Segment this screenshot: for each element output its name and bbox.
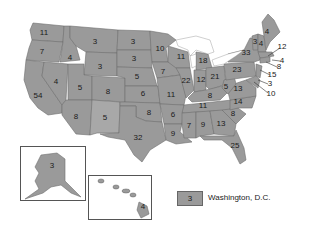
state-label-alaska: 3 bbox=[50, 162, 54, 170]
state-label-north-dakota: 3 bbox=[131, 38, 135, 46]
state-label-montana: 3 bbox=[93, 38, 97, 46]
state-label-delaware: 3 bbox=[268, 80, 272, 88]
state-label-maine: 4 bbox=[265, 28, 269, 36]
state-label-texas: 32 bbox=[134, 134, 143, 142]
state-label-california: 54 bbox=[34, 92, 43, 100]
state-label-louisiana: 9 bbox=[171, 130, 175, 138]
state-label-arkansas: 6 bbox=[171, 111, 175, 119]
state-label-hawaii: 4 bbox=[141, 203, 145, 211]
state-label-minnesota: 10 bbox=[156, 45, 165, 53]
state-label-mississippi: 7 bbox=[187, 122, 191, 130]
state-label-virginia: 13 bbox=[234, 85, 243, 93]
state-label-connecticut: 8 bbox=[277, 63, 281, 71]
state-alaska bbox=[25, 153, 81, 199]
state-label-south-carolina: 8 bbox=[231, 110, 235, 118]
state-label-missouri: 11 bbox=[167, 91, 175, 99]
state-label-indiana: 12 bbox=[197, 76, 206, 84]
state-label-new-jersey: 15 bbox=[268, 71, 277, 79]
state-label-georgia: 13 bbox=[217, 120, 226, 128]
state-label-kansas: 6 bbox=[141, 90, 145, 98]
state-label-kentucky: 8 bbox=[208, 92, 212, 100]
state-label-new-hampshire: 4 bbox=[259, 40, 263, 48]
state-label-ohio: 21 bbox=[211, 73, 220, 81]
state-label-colorado: 8 bbox=[106, 88, 110, 96]
state-label-idaho: 4 bbox=[68, 54, 72, 62]
state-label-arizona: 8 bbox=[74, 113, 78, 121]
hawaii-inset bbox=[88, 175, 152, 220]
state-label-new-mexico: 5 bbox=[103, 114, 107, 122]
state-label-south-dakota: 3 bbox=[132, 55, 136, 63]
state-label-wisconsin: 11 bbox=[177, 53, 185, 61]
state-label-new-york: 33 bbox=[242, 49, 251, 57]
state-label-oregon: 7 bbox=[40, 48, 44, 56]
state-label-alabama: 9 bbox=[201, 121, 205, 129]
state-label-nevada: 4 bbox=[54, 78, 58, 86]
state-label-iowa: 7 bbox=[161, 68, 165, 76]
state-label-west-virginia: 5 bbox=[224, 83, 228, 91]
state-label-pennsylvania: 23 bbox=[233, 66, 242, 74]
state-connecticut bbox=[260, 57, 270, 63]
state-label-nebraska: 5 bbox=[135, 73, 139, 81]
legend-swatch: 3 bbox=[177, 191, 203, 206]
state-label-illinois: 22 bbox=[182, 77, 191, 85]
state-new-jersey bbox=[256, 64, 262, 78]
state-label-wyoming: 3 bbox=[98, 63, 102, 71]
alaska-inset bbox=[20, 146, 86, 201]
state-label-oklahoma: 8 bbox=[147, 109, 151, 117]
state-label-vermont: 3 bbox=[253, 38, 257, 46]
state-label-florida: 25 bbox=[231, 142, 240, 150]
state-label-utah: 5 bbox=[78, 84, 82, 92]
state-oregon bbox=[26, 40, 63, 62]
state-label-maryland: 10 bbox=[267, 90, 276, 98]
state-label-washington: 11 bbox=[40, 29, 48, 37]
legend-label: Washington, D.C. bbox=[208, 193, 270, 202]
state-label-michigan: 18 bbox=[199, 57, 208, 65]
lake-michigan bbox=[190, 54, 196, 68]
state-label-north-carolina: 14 bbox=[234, 98, 243, 106]
state-label-massachusetts: 12 bbox=[278, 43, 287, 51]
state-label-tennessee: 11 bbox=[199, 102, 207, 110]
